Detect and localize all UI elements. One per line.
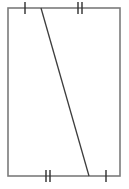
geometry-figure-container: [0, 0, 129, 189]
geometry-diagram: [0, 0, 129, 189]
figure-background: [0, 0, 129, 189]
